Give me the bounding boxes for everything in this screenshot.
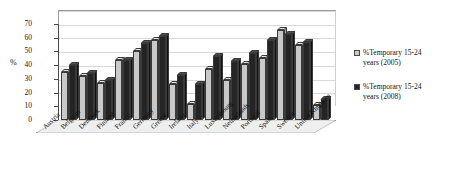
bar-face [267,40,274,120]
bar [133,51,140,120]
bar-group [186,10,204,134]
bar [115,60,122,120]
y-tick-mark [54,93,58,94]
bar [285,34,292,120]
legend-item-2008[interactable]: %Temporary 15-24 years (2008) [354,82,458,102]
bar-face [285,34,292,120]
legend-swatch-2008-icon [354,84,360,90]
legend-label-2008-line2: years (2008) [363,92,458,102]
plot-area: 010203040506070 [36,10,336,122]
bar [295,45,302,120]
bar-face [133,51,140,120]
bar [259,58,266,120]
bar-face [169,84,176,120]
bar [169,84,176,120]
y-tick-label: 50 [6,47,32,55]
y-tick-label: 10 [6,102,32,110]
bar-face [195,84,202,120]
bar-face [295,45,302,120]
bar-chart: 010203040506070 % AustriaBelgiumDenmarkF… [0,0,460,180]
chart-legend: %Temporary 15-24 years (2005) %Temporary… [354,48,458,117]
bar-face [159,36,166,120]
legend-item-2005[interactable]: %Temporary 15-24 years (2005) [354,48,458,68]
y-tick-label: 70 [6,20,32,28]
y-axis-title: % [10,58,17,67]
bar [267,40,274,120]
x-axis-category-labels: AustriaBelgiumDenmarkFinlandFranceGerman… [36,120,336,176]
legend-label-2005-line2: years (2005) [363,58,458,68]
y-tick-label: 60 [6,34,32,42]
bar [159,36,166,120]
bar-face [115,60,122,120]
bar-group [312,10,330,134]
bar [195,84,202,120]
y-tick-mark [54,65,58,66]
x-axis-label: Italy [186,117,200,131]
y-tick-label: 30 [6,75,32,83]
bar-face [259,58,266,120]
bar [151,40,158,120]
bar [205,69,212,120]
y-tick-mark [54,38,58,39]
y-tick-label: 20 [6,89,32,97]
y-tick-mark [54,79,58,80]
legend-label-2008-line1: %Temporary 15-24 [363,82,458,92]
bar [61,72,68,120]
bar-face [205,69,212,120]
legend-label-2005-line1: %Temporary 15-24 [363,48,458,58]
y-tick-mark [54,24,58,25]
bar [277,30,284,121]
legend-swatch-2005-icon [354,50,360,56]
bar-face [151,40,158,120]
bar-face [61,72,68,120]
y-tick-mark [54,51,58,52]
y-tick-label: 0 [6,116,32,124]
bar-face [277,30,284,121]
y-tick-mark [54,106,58,107]
